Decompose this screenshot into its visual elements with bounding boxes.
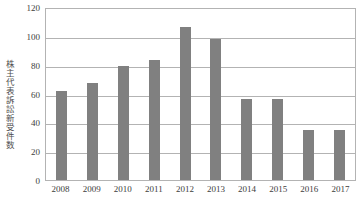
y-axis-tick-labels: 020406080100120 bbox=[16, 0, 43, 181]
bar[interactable] bbox=[87, 83, 98, 180]
bar-slot bbox=[262, 9, 293, 180]
bar[interactable] bbox=[149, 60, 160, 180]
bar-slot bbox=[170, 9, 201, 180]
bar[interactable] bbox=[334, 130, 345, 180]
x-axis-tick-label: 2013 bbox=[207, 184, 225, 200]
bars-layer bbox=[46, 9, 355, 180]
x-axis-tick-label: 2014 bbox=[238, 184, 256, 200]
y-axis-title: 株主代表訴訟新受件数 bbox=[0, 44, 16, 166]
x-tick-slot: 2012 bbox=[169, 184, 200, 200]
bar-slot bbox=[201, 9, 232, 180]
bar-slot bbox=[324, 9, 355, 180]
x-tick-slot: 2017 bbox=[325, 184, 356, 200]
y-axis-tick-label: 100 bbox=[27, 32, 41, 42]
bar-slot bbox=[46, 9, 77, 180]
bar-slot bbox=[231, 9, 262, 180]
x-tick-slot: 2014 bbox=[232, 184, 263, 200]
x-tick-slot: 2011 bbox=[138, 184, 169, 200]
y-axis-tick-label: 120 bbox=[27, 3, 41, 13]
y-axis-tick-label: 20 bbox=[31, 147, 40, 157]
y-axis-tick-label: 80 bbox=[31, 61, 40, 71]
bar-slot bbox=[293, 9, 324, 180]
plot-area bbox=[45, 8, 356, 181]
bar-chart-figure: 株主代表訴訟新受件数 020406080100120 2008200920102… bbox=[0, 0, 364, 209]
x-axis-tick-label: 2017 bbox=[331, 184, 349, 200]
bar[interactable] bbox=[303, 130, 314, 180]
bar-slot bbox=[77, 9, 108, 180]
bar-slot bbox=[139, 9, 170, 180]
y-axis-tick-label: 40 bbox=[31, 118, 40, 128]
x-axis-tick-label: 2012 bbox=[176, 184, 194, 200]
bar[interactable] bbox=[210, 39, 221, 180]
x-axis-tick-label: 2016 bbox=[300, 184, 318, 200]
x-axis-tick-label: 2015 bbox=[269, 184, 287, 200]
bar-slot bbox=[108, 9, 139, 180]
bar[interactable] bbox=[56, 91, 67, 180]
x-tick-slot: 2008 bbox=[45, 184, 76, 200]
y-axis-tick-label: 60 bbox=[31, 90, 40, 100]
x-axis-tick-label: 2009 bbox=[83, 184, 101, 200]
x-axis-tick-labels: 2008200920102011201220132014201520162017 bbox=[45, 184, 356, 200]
x-tick-slot: 2015 bbox=[263, 184, 294, 200]
x-axis-tick-label: 2008 bbox=[52, 184, 70, 200]
x-axis-tick-label: 2010 bbox=[114, 184, 132, 200]
bar[interactable] bbox=[272, 99, 283, 180]
bar[interactable] bbox=[241, 99, 252, 180]
x-tick-slot: 2009 bbox=[76, 184, 107, 200]
bar[interactable] bbox=[118, 66, 129, 180]
x-tick-slot: 2016 bbox=[294, 184, 325, 200]
y-axis-tick-label: 0 bbox=[36, 176, 41, 186]
x-tick-slot: 2010 bbox=[107, 184, 138, 200]
x-tick-slot: 2013 bbox=[200, 184, 231, 200]
x-axis-tick-label: 2011 bbox=[145, 184, 163, 200]
bar[interactable] bbox=[180, 27, 191, 180]
